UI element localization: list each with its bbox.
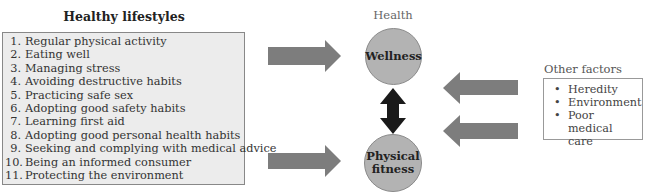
wellness-circle: Wellness — [365, 28, 422, 85]
arrow-left-upper-from-other-factors — [443, 72, 518, 104]
health-label: Health — [365, 8, 421, 22]
arrow-right-to-wellness — [268, 40, 341, 72]
arrow-right-to-fitness — [268, 145, 341, 177]
wellness-label: Wellness — [365, 50, 422, 63]
other-factors-list: •Heredity •Environment •Poor medical car… — [544, 79, 642, 148]
physical-fitness-circle: Physicalfitness — [364, 134, 422, 192]
bullet-icon: • — [554, 83, 561, 96]
factor-label: Environment — [568, 96, 642, 109]
other-factor-item: •Poor medical care — [554, 109, 642, 148]
other-factor-item: •Environment — [554, 96, 642, 109]
bullet-icon: • — [554, 96, 561, 109]
physical-fitness-line2: fitness — [372, 162, 414, 176]
bullet-icon: • — [554, 109, 561, 122]
other-factors-box: •Heredity •Environment •Poor medical car… — [543, 78, 643, 140]
other-factor-item: •Heredity — [554, 83, 642, 96]
physical-fitness-line1: Physical — [366, 149, 419, 163]
factor-label: Poor medical care — [568, 109, 634, 148]
arrow-left-lower-from-other-factors — [443, 115, 518, 147]
other-factors-title: Other factors — [544, 62, 622, 76]
double-arrow-wellness-fitness — [380, 88, 406, 134]
physical-fitness-label: Physicalfitness — [366, 150, 419, 176]
factor-label: Heredity — [568, 83, 618, 96]
